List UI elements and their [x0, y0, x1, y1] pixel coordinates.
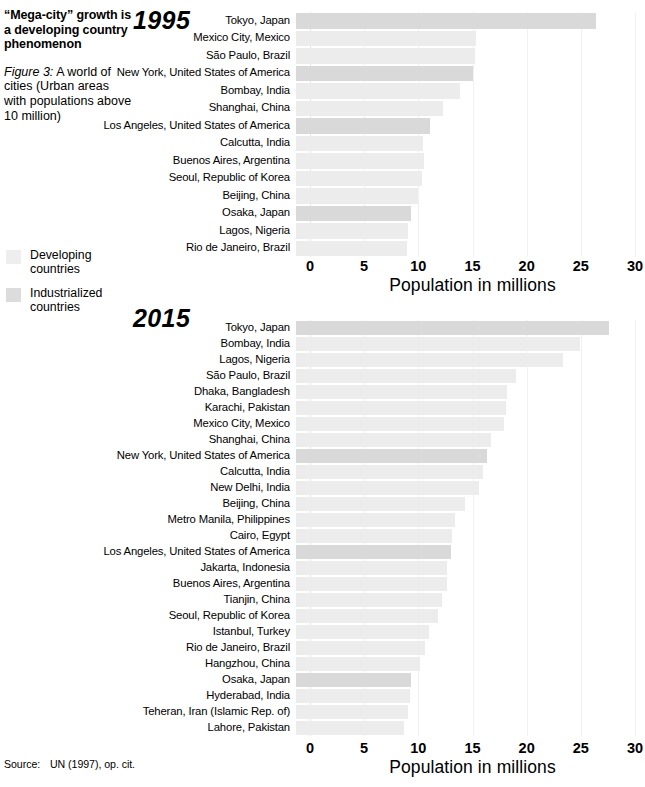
bar-row: Jakarta, Indonesia [0, 560, 645, 576]
bar-track [296, 240, 621, 258]
bar-row-label: Seoul, Republic of Korea [0, 172, 296, 184]
bar [296, 545, 451, 559]
x-axis-1995-tick: 20 [519, 258, 535, 274]
bar-rows-2015: Tokyo, JapanBombay, IndiaLagos, NigeriaS… [0, 320, 645, 736]
bar-track [296, 608, 621, 624]
bar-row-label: Buenos Aires, Argentina [0, 155, 296, 167]
bar-row: New Delhi, India [0, 480, 645, 496]
source-note: Source:UN (1997), op. cit. [4, 758, 135, 770]
bar-track [296, 640, 621, 656]
bar-row: Tokyo, Japan [0, 12, 645, 30]
bar-row-label: Rio de Janeiro, Brazil [0, 242, 296, 254]
bar-track [296, 448, 621, 464]
bar-track [296, 704, 621, 720]
bar [296, 513, 455, 527]
x-axis-2015-tick: 10 [410, 740, 426, 756]
bar [296, 657, 420, 671]
bar-row: São Paulo, Brazil [0, 368, 645, 384]
bar-track [296, 82, 621, 100]
bar-track [296, 12, 621, 30]
bar-row: Buenos Aires, Argentina [0, 576, 645, 592]
bar-track [296, 135, 621, 153]
bar-track [296, 100, 621, 118]
bar-track [296, 672, 621, 688]
bar-track [296, 352, 621, 368]
bar-row: Lagos, Nigeria [0, 222, 645, 240]
bar [296, 223, 408, 239]
legend-swatch-industrialized-icon [6, 288, 21, 302]
x-axis-2015-tick: 5 [360, 740, 368, 756]
bar-row-label: Osaka, Japan [0, 674, 296, 686]
x-axis-1995-tick: 25 [573, 258, 589, 274]
bar-row: New York, United States of America [0, 65, 645, 83]
bar-row: Hyderabad, India [0, 688, 645, 704]
bar-row-label: São Paulo, Brazil [0, 370, 296, 382]
bar [296, 48, 475, 64]
bar-track [296, 416, 621, 432]
bar-row-label: Mexico City, Mexico [0, 32, 296, 44]
bar-track [296, 496, 621, 512]
bar-row: Lagos, Nigeria [0, 352, 645, 368]
bar [296, 66, 473, 82]
bar [296, 689, 410, 703]
bar [296, 449, 487, 463]
bar [296, 577, 447, 591]
bar-row-label: Tianjin, China [0, 594, 296, 606]
bar-row: Seoul, Republic of Korea [0, 608, 645, 624]
bar-track [296, 464, 621, 480]
bar-row-label: Seoul, Republic of Korea [0, 610, 296, 622]
x-axis-2015: Population in millions 051015202530 [310, 740, 635, 780]
bar-track [296, 170, 621, 188]
bar [296, 625, 429, 639]
bar-row: Rio de Janeiro, Brazil [0, 240, 645, 258]
bar-track [296, 30, 621, 48]
bar [296, 401, 506, 415]
bar [296, 153, 424, 169]
bar-row-label: Calcutta, India [0, 137, 296, 149]
bar [296, 497, 465, 511]
bar-row-label: Los Angeles, United States of America [0, 546, 296, 558]
bar-row: Hangzhou, China [0, 656, 645, 672]
bar-row: Mexico City, Mexico [0, 30, 645, 48]
bar-row-label: Buenos Aires, Argentina [0, 578, 296, 590]
bar-row: Calcutta, India [0, 464, 645, 480]
bar-track [296, 368, 621, 384]
x-axis-title-1995: Population in millions [310, 275, 635, 296]
bar-row: Mexico City, Mexico [0, 416, 645, 432]
bar-row-label: New York, United States of America [0, 450, 296, 462]
source-label: Source: [4, 758, 50, 770]
bar [296, 206, 411, 222]
bar-row-label: Dhaka, Bangladesh [0, 386, 296, 398]
bar-track [296, 47, 621, 65]
bar [296, 705, 408, 719]
bar-track [296, 320, 621, 336]
legend-label-industrialized: Industrialized countries [30, 286, 136, 315]
bar-row-label: São Paulo, Brazil [0, 50, 296, 62]
bar-chart-2015: Tokyo, JapanBombay, IndiaLagos, NigeriaS… [0, 320, 645, 736]
bar-row: Karachi, Pakistan [0, 400, 645, 416]
bar-row: Los Angeles, United States of America [0, 544, 645, 560]
bar-track [296, 336, 621, 352]
bar [296, 529, 452, 543]
bar [296, 673, 411, 687]
bar-track [296, 222, 621, 240]
bar-row: Calcutta, India [0, 135, 645, 153]
bar [296, 433, 491, 447]
bar-row-label: Karachi, Pakistan [0, 402, 296, 414]
bar-track [296, 117, 621, 135]
bar-row: Beijing, China [0, 187, 645, 205]
x-axis-2015-tick: 25 [573, 740, 589, 756]
bar-row: Tianjin, China [0, 592, 645, 608]
bar [296, 118, 430, 134]
bar-track [296, 656, 621, 672]
bar-row: Shanghai, China [0, 100, 645, 118]
bar-track [296, 512, 621, 528]
bar-row: Dhaka, Bangladesh [0, 384, 645, 400]
bar-track [296, 544, 621, 560]
bar-row-label: Bombay, India [0, 338, 296, 350]
bar-track [296, 624, 621, 640]
bar-row: Shanghai, China [0, 432, 645, 448]
bar-row-label: Mexico City, Mexico [0, 418, 296, 430]
bar-track [296, 187, 621, 205]
bar-row-label: Shanghai, China [0, 434, 296, 446]
